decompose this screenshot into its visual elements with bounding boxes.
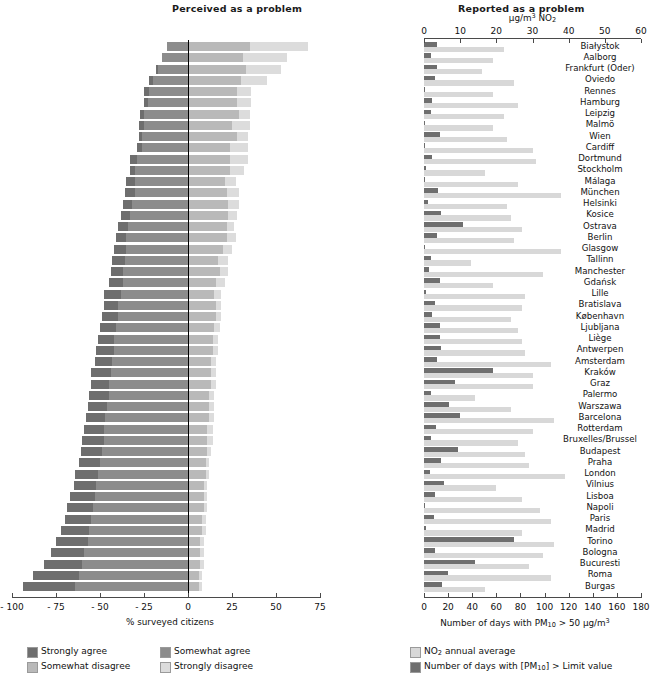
- right-bar-pm10-days: [424, 121, 425, 125]
- segment-somewhat-disagree: [188, 335, 213, 344]
- segment-strongly-agree: [44, 560, 83, 569]
- segment-somewhat-agree: [148, 98, 188, 107]
- legend-strongly-agree-swatch: [27, 647, 38, 658]
- left-bar-row: [0, 301, 340, 310]
- segment-strongly-disagree: [220, 267, 229, 276]
- right-bar-pm10-days: [424, 166, 426, 170]
- row-label-city: Aalborg: [554, 53, 646, 62]
- segment-strongly-disagree: [204, 492, 208, 501]
- segment-somewhat-disagree: [188, 458, 206, 467]
- left-axis-tick-label: - 75: [38, 602, 74, 612]
- segment-somewhat-agree: [109, 391, 188, 400]
- right-bar-no2: [424, 452, 525, 457]
- segment-somewhat-agree: [126, 245, 188, 254]
- right-bar-no2: [424, 204, 507, 209]
- segment-strongly-disagree: [204, 503, 208, 512]
- segment-somewhat-disagree: [188, 301, 216, 310]
- left-axis-tick: [100, 593, 101, 598]
- row-label-city: Stockholm: [554, 165, 646, 174]
- right-bar-pm10-days: [424, 312, 432, 316]
- legend-pm10-days-swatch: [410, 662, 421, 673]
- left-axis-tick-label: 75: [302, 602, 338, 612]
- legend-strongly-disagree-label: Strongly disagree: [174, 661, 253, 671]
- segment-somewhat-agree: [116, 323, 188, 332]
- row-label-city: Torino: [554, 537, 646, 546]
- row-label-city: Burgas: [554, 582, 646, 591]
- row-label-city: Praha: [554, 458, 646, 467]
- segment-somewhat-disagree: [188, 110, 239, 119]
- left-bar-row: [0, 245, 340, 254]
- segment-strongly-disagree: [227, 188, 239, 197]
- left-bar-row: [0, 312, 340, 321]
- left-bar-row: [0, 346, 340, 355]
- segment-strongly-agree: [33, 571, 79, 580]
- right-bar-no2: [424, 362, 551, 367]
- row-label-city: Bratislava: [554, 300, 646, 309]
- right-bar-pm10-days: [424, 256, 431, 260]
- row-label-city: Wien: [554, 132, 646, 141]
- right-bar-no2: [424, 350, 525, 355]
- segment-strongly-agree: [130, 155, 137, 164]
- left-axis-tick: [232, 593, 233, 598]
- segment-strongly-disagree: [209, 413, 214, 422]
- segment-somewhat-agree: [102, 447, 188, 456]
- segment-somewhat-disagree: [188, 560, 200, 569]
- right-bar-no2: [424, 418, 554, 423]
- left-bar-row: [0, 267, 340, 276]
- left-bar-row: [0, 155, 340, 164]
- left-bar-row: [0, 76, 340, 85]
- right-bar-no2: [424, 530, 522, 535]
- segment-somewhat-disagree: [188, 436, 207, 445]
- right-top-axis-tick-label: 0: [409, 26, 439, 36]
- left-bar-row: [0, 121, 340, 130]
- segment-somewhat-agree: [123, 278, 188, 287]
- segment-somewhat-agree: [105, 413, 188, 422]
- left-axis-tick: [56, 593, 57, 598]
- segment-somewhat-agree: [91, 515, 188, 524]
- left-bar-row: [0, 177, 340, 186]
- right-bar-pm10-days: [424, 335, 440, 339]
- segment-strongly-disagree: [228, 211, 237, 220]
- segment-strongly-agree: [84, 425, 103, 434]
- right-bar-no2: [424, 474, 565, 479]
- right-bar-no2: [424, 47, 504, 52]
- right-bar-pm10-days: [424, 391, 431, 395]
- segment-somewhat-disagree: [188, 87, 237, 96]
- right-bar-pm10-days: [424, 323, 440, 327]
- right-bar-pm10-days: [424, 582, 442, 586]
- right-top-axis-tick: [533, 39, 534, 43]
- segment-strongly-disagree: [227, 222, 234, 231]
- segment-somewhat-agree: [79, 571, 188, 580]
- right-bar-pm10-days: [424, 413, 460, 417]
- row-label-city: Antwerpen: [554, 345, 646, 354]
- right-top-axis-tick: [424, 39, 425, 43]
- right-bar-no2: [424, 587, 485, 592]
- segment-somewhat-agree: [100, 458, 188, 467]
- segment-somewhat-agree: [137, 155, 188, 164]
- segment-somewhat-agree: [135, 177, 188, 186]
- right-bar-pm10-days: [424, 110, 431, 114]
- segment-somewhat-agree: [114, 346, 188, 355]
- right-bar-pm10-days: [424, 537, 514, 541]
- right-bar-no2: [424, 485, 496, 490]
- right-bar-pm10-days: [424, 211, 441, 215]
- segment-strongly-disagree: [214, 290, 221, 299]
- row-label-city: Rotterdam: [554, 424, 646, 433]
- segment-somewhat-disagree: [188, 503, 204, 512]
- right-bar-pm10-days: [424, 143, 425, 147]
- right-bar-pm10-days: [424, 200, 428, 204]
- segment-strongly-disagree: [207, 436, 212, 445]
- segment-strongly-agree: [118, 222, 129, 231]
- right-bar-no2: [424, 159, 536, 164]
- segment-somewhat-disagree: [188, 368, 211, 377]
- right-bar-no2: [424, 508, 540, 513]
- segment-strongly-agree: [123, 200, 132, 209]
- right-bar-no2: [424, 575, 551, 580]
- right-bar-pm10-days: [424, 458, 441, 462]
- segment-somewhat-agree: [118, 301, 188, 310]
- segment-strongly-disagree: [199, 571, 203, 580]
- segment-somewhat-disagree: [188, 53, 243, 62]
- segment-strongly-agree: [67, 503, 93, 512]
- right-bar-pm10-days: [424, 492, 435, 496]
- right-bar-no2: [424, 69, 482, 74]
